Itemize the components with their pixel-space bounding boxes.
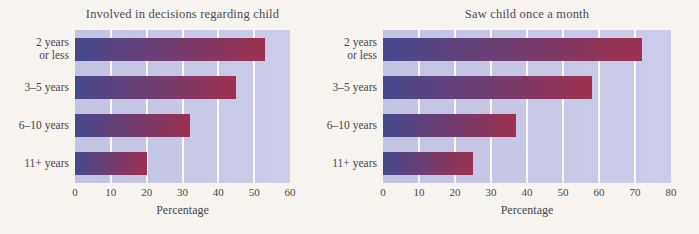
x-tick-label: 20 bbox=[141, 186, 152, 198]
bar-6-10-years bbox=[75, 114, 190, 137]
figure: Involved in decisions regarding child 2 … bbox=[0, 0, 699, 234]
x-tick-label: 10 bbox=[105, 186, 116, 198]
chart-title: Involved in decisions regarding child bbox=[75, 7, 290, 22]
bar-11+-years bbox=[75, 152, 147, 175]
category-label: 3–5 years bbox=[333, 68, 377, 106]
plot-area bbox=[383, 30, 671, 183]
plot-area bbox=[75, 30, 290, 183]
category-label: 6–10 years bbox=[327, 107, 377, 145]
chart-saw-child-once-a-month: Saw child once a month 2 yearsor less3–5… bbox=[310, 0, 699, 234]
bar-11+-years bbox=[383, 152, 473, 175]
x-tick-label: 50 bbox=[558, 186, 569, 198]
x-tick-label: 60 bbox=[285, 186, 296, 198]
x-tick-label: 80 bbox=[666, 186, 677, 198]
x-tick-label: 40 bbox=[522, 186, 533, 198]
x-tick-label: 10 bbox=[414, 186, 425, 198]
category-label: 6–10 years bbox=[19, 107, 69, 145]
x-tick-label: 0 bbox=[72, 186, 78, 198]
x-tick-label: 30 bbox=[177, 186, 188, 198]
x-tick-label: 0 bbox=[380, 186, 386, 198]
bar-3-5-years bbox=[383, 76, 592, 99]
chart-involved-in-decisions: Involved in decisions regarding child 2 … bbox=[0, 0, 335, 234]
x-tick-label: 60 bbox=[594, 186, 605, 198]
x-tick-label: 50 bbox=[249, 186, 260, 198]
bar-2-years-or-less bbox=[75, 38, 265, 61]
x-axis-label: Percentage bbox=[75, 203, 290, 218]
x-tick-label: 30 bbox=[486, 186, 497, 198]
chart-title: Saw child once a month bbox=[383, 7, 671, 22]
bar-2-years-or-less bbox=[383, 38, 642, 61]
x-axis-label: Percentage bbox=[383, 203, 671, 218]
category-label: 11+ years bbox=[24, 145, 69, 183]
y-axis-labels: 2 yearsor less3–5 years6–10 years11+ yea… bbox=[0, 30, 69, 183]
category-label: 2 yearsor less bbox=[36, 30, 69, 68]
category-label: 11+ years bbox=[332, 145, 377, 183]
category-label: 2 yearsor less bbox=[344, 30, 377, 68]
bar-3-5-years bbox=[75, 76, 236, 99]
x-tick-label: 70 bbox=[630, 186, 641, 198]
x-axis-ticks: 01020304050607080 bbox=[383, 186, 671, 200]
x-axis-ticks: 0102030405060 bbox=[75, 186, 290, 200]
x-tick-label: 40 bbox=[213, 186, 224, 198]
category-label: 3–5 years bbox=[25, 68, 69, 106]
x-tick-label: 20 bbox=[450, 186, 461, 198]
y-axis-labels: 2 yearsor less3–5 years6–10 years11+ yea… bbox=[310, 30, 377, 183]
bar-6-10-years bbox=[383, 114, 516, 137]
